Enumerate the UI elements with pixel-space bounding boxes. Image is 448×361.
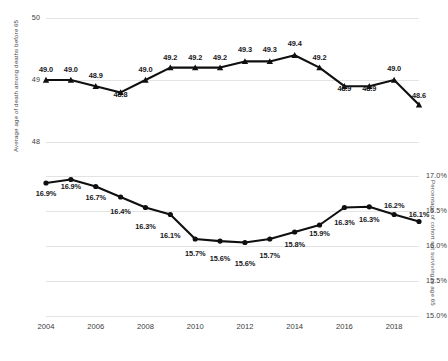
data-point-label: 16.4% bbox=[110, 207, 130, 216]
x-axis-tick-label: 2008 bbox=[137, 322, 154, 331]
dual-line-chart-figure: Average age of death among deaths before… bbox=[0, 0, 448, 361]
data-point-label: 49.3 bbox=[238, 45, 252, 54]
data-point-label: 49.0 bbox=[39, 65, 53, 74]
x-axis-tick-label: 2004 bbox=[38, 322, 55, 331]
gridline bbox=[46, 316, 419, 317]
data-point-label: 49.2 bbox=[313, 53, 327, 62]
data-point-label: 48.9 bbox=[337, 84, 351, 93]
data-point-label: 48.9 bbox=[362, 84, 376, 93]
data-point-label: 16.7% bbox=[85, 193, 105, 202]
data-point-label: 49.0 bbox=[138, 65, 152, 74]
x-axis-tick-label: 2006 bbox=[87, 322, 104, 331]
data-point-label: 16.3% bbox=[359, 215, 379, 224]
data-point-label: 15.8% bbox=[284, 240, 304, 249]
x-axis-tick-label: 2018 bbox=[386, 322, 403, 331]
data-point-marker bbox=[267, 236, 272, 241]
data-point-marker bbox=[168, 212, 173, 217]
y-axis-tick-label: 49 bbox=[32, 75, 40, 84]
data-point-marker bbox=[292, 229, 297, 234]
data-point-label: 48.9 bbox=[89, 71, 103, 80]
data-point-marker bbox=[143, 205, 148, 210]
data-point-label: 49.2 bbox=[188, 53, 202, 62]
top-chart-y-axis-title: Average age of death among deaths before… bbox=[12, 20, 19, 152]
data-point-label: 49.2 bbox=[213, 53, 227, 62]
data-point-marker bbox=[416, 219, 421, 224]
data-point-marker bbox=[217, 239, 222, 244]
data-point-label: 48.6 bbox=[412, 91, 426, 100]
data-point-label: 15.7% bbox=[260, 251, 280, 260]
y-axis-tick-label: 16.0% bbox=[426, 241, 447, 250]
data-point-marker bbox=[43, 180, 48, 185]
data-point-marker bbox=[367, 204, 372, 209]
data-point-marker bbox=[118, 194, 123, 199]
gridline bbox=[46, 142, 419, 143]
top-chart-plot-area: 48495049.049.048.948.849.049.249.249.249… bbox=[46, 18, 419, 142]
data-point-marker bbox=[392, 212, 397, 217]
data-point-label: 16.9% bbox=[61, 182, 81, 191]
data-point-label: 15.7% bbox=[185, 249, 205, 258]
data-point-label: 49.0 bbox=[387, 64, 401, 73]
data-point-label: 49.0 bbox=[64, 65, 78, 74]
data-point-label: 16.1% bbox=[160, 231, 180, 240]
x-axis: 20042006200820102012201420162018 bbox=[0, 318, 448, 338]
top-chart-panel: Average age of death among deaths before… bbox=[0, 0, 448, 160]
x-axis-tick-label: 2014 bbox=[286, 322, 303, 331]
x-axis-tick-label: 2010 bbox=[187, 322, 204, 331]
bottom-chart-panel: Percentage of cohort not surviving to ag… bbox=[0, 166, 448, 361]
data-point-marker bbox=[193, 236, 198, 241]
x-axis-tick-label: 2012 bbox=[236, 322, 253, 331]
data-point-label: 15.9% bbox=[309, 229, 329, 238]
data-point-label: 16.1% bbox=[409, 210, 429, 219]
bottom-chart-plot-area: 15.0%15.5%16.0%16.5%17.0%16.9%16.9%16.7%… bbox=[46, 176, 419, 316]
data-point-label: 16.9% bbox=[36, 189, 56, 198]
y-axis-tick-label: 15.5% bbox=[426, 276, 447, 285]
series-line bbox=[46, 180, 419, 243]
data-point-label: 15.6% bbox=[235, 259, 255, 268]
x-axis-tick-label: 2016 bbox=[336, 322, 353, 331]
data-point-label: 49.3 bbox=[263, 45, 277, 54]
data-point-marker bbox=[342, 205, 347, 210]
data-point-label: 16.3% bbox=[135, 222, 155, 231]
y-axis-tick-label: 48 bbox=[32, 137, 40, 146]
data-point-marker bbox=[93, 184, 98, 189]
data-point-marker bbox=[317, 222, 322, 227]
data-point-label: 49.2 bbox=[163, 53, 177, 62]
data-point-label: 48.8 bbox=[114, 90, 128, 99]
data-point-label: 15.6% bbox=[210, 254, 230, 263]
data-point-label: 16.2% bbox=[384, 201, 404, 210]
y-axis-tick-label: 50 bbox=[32, 13, 40, 22]
data-point-label: 49.4 bbox=[288, 39, 302, 48]
data-point-label: 16.3% bbox=[334, 218, 354, 227]
y-axis-tick-label: 17.0% bbox=[426, 171, 447, 180]
data-point-marker bbox=[242, 240, 247, 245]
